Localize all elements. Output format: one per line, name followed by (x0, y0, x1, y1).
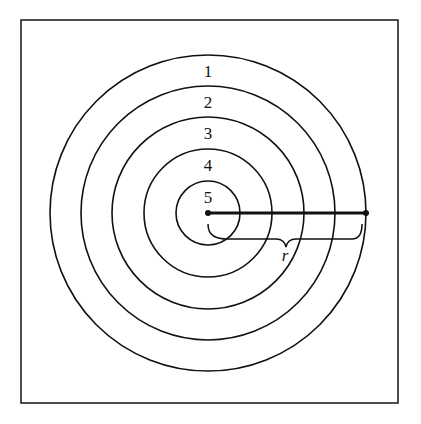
target-diagram: 1 2 3 4 5 r (0, 0, 421, 424)
ring-label-2: 2 (204, 93, 213, 112)
ring-label-4: 4 (204, 156, 213, 175)
ring-label-3: 3 (204, 124, 213, 143)
edge-point (363, 210, 369, 216)
diagram-canvas: 1 2 3 4 5 r (0, 0, 421, 424)
ring-label-1: 1 (204, 62, 213, 81)
radius-label: r (282, 246, 289, 265)
ring-label-5: 5 (204, 188, 213, 207)
center-point (205, 210, 211, 216)
